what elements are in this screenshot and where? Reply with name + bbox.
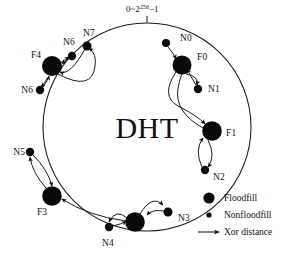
node-n5-nonfloodfill <box>26 148 34 156</box>
xor-distance-edge <box>33 155 52 186</box>
xor-distance-edge <box>208 140 212 167</box>
dht-ring-diagram: 0~2256−1 DHT N0F0N1F1N2N3N4F3N5N6F4N6N7 … <box>0 0 294 253</box>
legend-label-floodfill: Floodfill <box>224 193 258 203</box>
node-label-n4: N4 <box>102 238 114 248</box>
node-label-n0: N0 <box>180 33 192 43</box>
page-title: DHT <box>115 111 178 144</box>
node-label-n2: N2 <box>213 172 225 182</box>
range-prefix: 0~2 <box>126 4 140 14</box>
node-label-n6b: N6 <box>21 85 33 95</box>
xor-distance-edge <box>62 199 126 221</box>
node-n0-nonfloodfill <box>162 39 170 47</box>
legend-label-nonfloodfill: Nonfloodfill <box>224 210 272 220</box>
ring-range-label: 0~2256−1 <box>126 4 158 14</box>
node-n3-nonfloodfill <box>164 208 173 217</box>
node-n2-nonfloodfill <box>201 166 209 174</box>
node-label-n5: N5 <box>13 147 25 157</box>
range-suffix: −1 <box>149 4 159 14</box>
range-exponent: 256 <box>140 4 149 10</box>
legend-nonfloodfill-marker-icon <box>206 212 211 217</box>
xor-distance-edge <box>147 211 164 216</box>
node-f3-floodfill <box>42 186 62 206</box>
node-n1-nonfloodfill <box>194 85 202 93</box>
node-f1-floodfill <box>202 121 222 141</box>
xor-distance-edge <box>168 47 176 59</box>
node-n7-nonfloodfill <box>83 42 92 51</box>
node-label-f4: F4 <box>31 50 41 60</box>
xor-distance-edge <box>41 76 49 87</box>
node-label-n1: N1 <box>208 84 220 94</box>
node-n6-nonfloodfill <box>68 52 76 60</box>
legend-label-xor-distance: Xor distance <box>224 227 272 237</box>
node-label-f1: F1 <box>226 128 236 138</box>
node-f4-floodfill <box>42 56 62 76</box>
node-label-n6a: N6 <box>63 37 75 47</box>
node-label-n7: N7 <box>83 28 95 38</box>
node-label-f3: F3 <box>37 207 47 217</box>
diagram-canvas: 0~2256−1 DHT N0F0N1F1N2N3N4F3N5N6F4N6N7 … <box>0 0 294 253</box>
node-n6-nonfloodfill <box>36 86 44 94</box>
xor-distance-edge <box>113 221 126 226</box>
node-n4-nonfloodfill <box>105 223 113 231</box>
legend-floodfill-marker-icon <box>203 192 214 203</box>
legend: Floodfill Nonfloodfill Xor distance <box>198 192 272 237</box>
xor-distance-edge <box>198 138 203 167</box>
node-unlabeled-floodfill <box>125 212 145 232</box>
node-f0-floodfill <box>173 56 192 75</box>
xor-distance-edge <box>30 157 46 188</box>
node-label-f0: F0 <box>197 52 207 62</box>
node-label-n3: N3 <box>178 213 190 223</box>
